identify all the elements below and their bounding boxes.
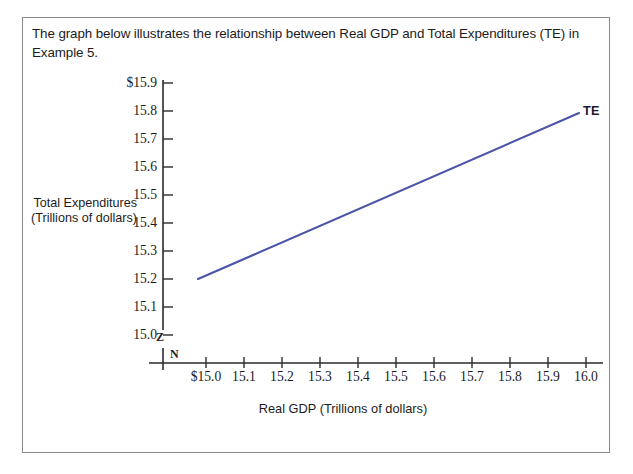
y-tick-label: 15.3 <box>95 243 157 259</box>
y-tick-label: 15.1 <box>95 299 157 315</box>
y-tick-label: 15.7 <box>95 131 157 147</box>
x-axis-title: Real GDP (Trillions of dollars) <box>143 401 543 416</box>
x-tick-label: 16.0 <box>558 369 614 385</box>
x-axis-break-icon: N <box>170 347 179 362</box>
te-line <box>198 113 579 279</box>
te-series-label: TE <box>583 104 600 118</box>
y-tick-label: 15.6 <box>95 159 157 175</box>
y-tick-label: 15.8 <box>95 103 157 119</box>
plot-area: $15.9 15.8 15.7 15.6 15.5 15.4 15.3 15.2… <box>23 18 611 454</box>
y-tick-label: $15.9 <box>95 75 157 91</box>
y-axis-title: Total Expenditures (Trillions of dollars… <box>21 196 137 225</box>
y-tick-label: 15.0 <box>95 327 157 343</box>
figure-frame: The graph below illustrates the relation… <box>22 17 610 453</box>
y-tick-marks <box>163 83 173 335</box>
y-tick-label: 15.2 <box>95 271 157 287</box>
y-axis-break-icon: Z <box>156 330 164 345</box>
